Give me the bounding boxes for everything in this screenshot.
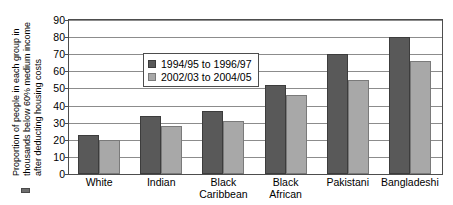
- bar: [327, 54, 348, 174]
- x-axis-label: White: [68, 177, 130, 189]
- x-axis-labels: WhiteIndianBlackCaribbeanBlackAfricanPak…: [68, 177, 443, 205]
- bar: [410, 61, 431, 174]
- footer-marker-icon: [21, 188, 30, 193]
- legend-item-series-1: 1994/95 to 1996/97: [148, 57, 252, 70]
- x-axis-label-line: Bangladeshi: [379, 177, 441, 189]
- x-axis-label-line: Caribbean: [192, 189, 254, 201]
- light-gray-swatch-icon: [148, 73, 156, 81]
- dark-gray-swatch-icon: [148, 60, 156, 68]
- x-axis-label-line: Pakistani: [317, 177, 379, 189]
- bar: [265, 85, 286, 174]
- bar: [140, 116, 161, 174]
- y-axis-tick-label: 80: [43, 32, 65, 43]
- y-axis-tick-mark: [65, 174, 69, 175]
- y-axis-tick-label: 50: [43, 83, 65, 94]
- y-axis-tick-label: 60: [43, 66, 65, 77]
- x-axis-label: Indian: [130, 177, 192, 189]
- x-axis-label-line: White: [68, 177, 130, 189]
- x-axis-label: BlackCaribbean: [192, 177, 254, 200]
- legend-label-series-1: 1994/95 to 1996/97: [161, 58, 252, 70]
- bar-group: [380, 20, 442, 174]
- x-axis-label-line: Indian: [130, 177, 192, 189]
- bar: [286, 95, 307, 174]
- x-axis-label: Bangladeshi: [379, 177, 441, 189]
- y-axis-title-line-1: Proportion of people in each group in: [11, 28, 21, 176]
- bar-series-container: [69, 20, 442, 174]
- y-axis-tick-label: 10: [43, 151, 65, 162]
- x-axis-label-line: Black: [192, 177, 254, 189]
- bar-group: [193, 20, 255, 174]
- bar: [99, 140, 120, 174]
- y-axis-tick-label: 0: [43, 169, 65, 180]
- plot-area: 0102030405060708090 1994/95 to 1996/97 2…: [68, 19, 443, 175]
- bar: [348, 80, 369, 174]
- x-axis-label-line: Black: [255, 177, 317, 189]
- bar: [389, 37, 410, 174]
- x-axis-label-line: African: [255, 189, 317, 201]
- y-axis-tick-label: 90: [43, 15, 65, 26]
- legend-label-series-2: 2002/03 to 2004/05: [161, 71, 252, 83]
- bar-group: [256, 20, 318, 174]
- y-axis-title: Proportion of people in each group in th…: [0, 0, 40, 180]
- bar-group: [318, 20, 380, 174]
- bar: [223, 121, 244, 174]
- bar: [78, 135, 99, 174]
- bar: [202, 111, 223, 174]
- y-axis-title-line-3: after deducting housing costs: [33, 59, 43, 176]
- y-axis-tick-label: 30: [43, 117, 65, 128]
- bar-chart: Proportion of people in each group in th…: [0, 0, 453, 205]
- legend-item-series-2: 2002/03 to 2004/05: [148, 70, 252, 83]
- x-axis-label: BlackAfrican: [255, 177, 317, 200]
- y-axis-tick-label: 40: [43, 100, 65, 111]
- chart-legend: 1994/95 to 1996/97 2002/03 to 2004/05: [143, 53, 259, 87]
- y-axis-title-line-2: thousands below 60% medium income: [22, 22, 32, 176]
- bar-group: [69, 20, 131, 174]
- x-axis-label: Pakistani: [317, 177, 379, 189]
- y-axis-tick-label: 20: [43, 134, 65, 145]
- bar: [161, 126, 182, 174]
- y-axis-tick-label: 70: [43, 49, 65, 60]
- bar-group: [131, 20, 193, 174]
